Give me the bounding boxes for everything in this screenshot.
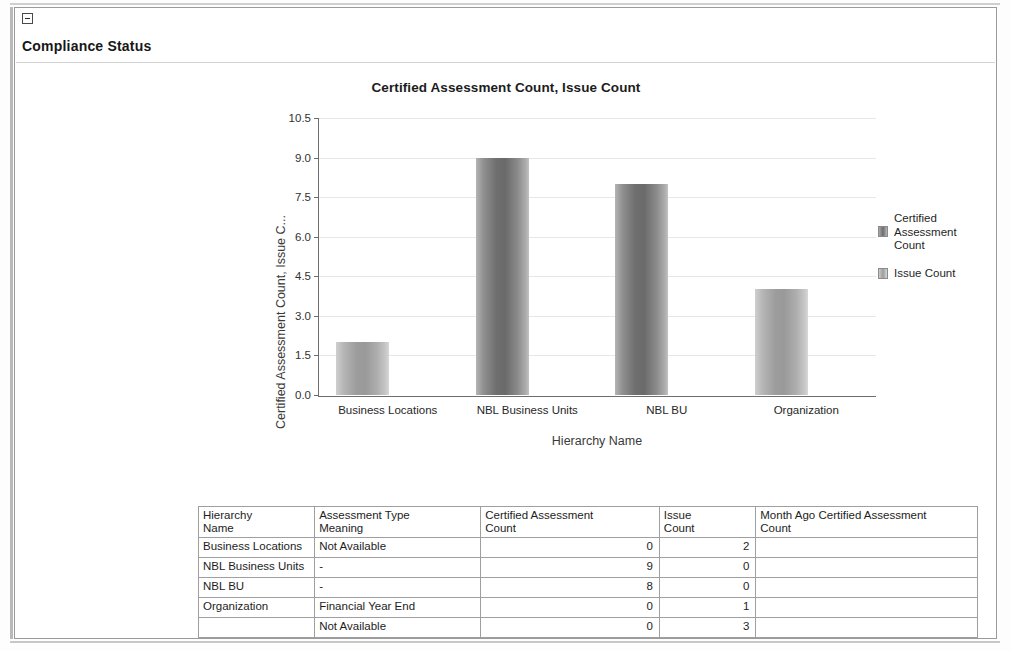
gridline (319, 237, 876, 238)
gridline (319, 118, 876, 119)
cell-month-ago-certified-assessment-count (756, 578, 978, 598)
legend-item-issue-count[interactable]: Issue Count (878, 267, 996, 281)
cell-assessment-type-meaning: Not Available (315, 538, 481, 558)
y-axis-tick-label: 4.5 (295, 270, 311, 282)
y-axis-tick-label: 9.0 (295, 152, 311, 164)
cell-assessment-type-meaning: - (315, 578, 481, 598)
y-axis-tick (314, 158, 318, 159)
y-axis-tick (314, 316, 318, 317)
cell-issue-count: 1 (659, 598, 755, 618)
bar-issue-count[interactable] (755, 289, 808, 395)
bar-certified-assessment-count[interactable] (476, 158, 529, 395)
cell-certified-assessment-count: 0 (481, 598, 660, 618)
y-axis-tick (314, 197, 318, 198)
table-body: Business LocationsNot Available02NBL Bus… (199, 538, 978, 638)
column-header-line: Count (485, 522, 655, 535)
y-axis-tick-label: 10.5 (289, 112, 311, 124)
chart-legend: Certified Assessment Count Issue Count (878, 212, 996, 294)
legend-label-line1: Certified (894, 212, 996, 226)
panel-left-edge (10, 7, 13, 639)
collapse-minus-icon[interactable] (22, 13, 33, 24)
cell-issue-count: 3 (659, 618, 755, 638)
column-header-line: Certified Assessment (485, 509, 655, 522)
legend-item-certified-assessment-count[interactable]: Certified Assessment Count (878, 212, 996, 253)
y-axis-tick (314, 118, 318, 119)
y-axis-tick-label: 0.0 (295, 389, 311, 401)
gridline (319, 276, 876, 277)
chart-title: Certified Assessment Count, Issue Count (16, 80, 996, 95)
cell-certified-assessment-count: 8 (481, 578, 660, 598)
y-axis-tick-label: 6.0 (295, 231, 311, 243)
table-row[interactable]: Business LocationsNot Available02 (199, 538, 978, 558)
column-header-issue-count[interactable]: IssueCount (659, 507, 755, 538)
legend-label-line1: Issue Count (894, 267, 996, 281)
y-axis-tick (314, 276, 318, 277)
x-axis-line (318, 396, 876, 397)
page-title: Compliance Status (22, 38, 151, 54)
gridline (319, 158, 876, 159)
x-axis-tick-label: NBL Business Units (477, 404, 578, 416)
y-axis-tick (314, 395, 318, 396)
report-page: Compliance Status Certified Assessment C… (0, 0, 1011, 651)
y-axis-tick (314, 355, 318, 356)
gridline (319, 197, 876, 198)
table-row[interactable]: NBL Business Units-90 (199, 558, 978, 578)
cell-issue-count: 0 (659, 578, 755, 598)
cell-assessment-type-meaning: Not Available (315, 618, 481, 638)
x-axis-tick-label: NBL BU (646, 404, 687, 416)
table-row[interactable]: OrganizationFinancial Year End01 (199, 598, 978, 618)
x-axis-title: Hierarchy Name (318, 434, 876, 448)
column-header-line: Meaning (319, 522, 476, 535)
x-axis-tick-label: Business Locations (338, 404, 437, 416)
cell-hierarchy-name: Organization (199, 598, 315, 618)
bar-issue-count[interactable] (336, 342, 389, 395)
legend-swatch-icon (878, 268, 888, 279)
cell-month-ago-certified-assessment-count (756, 598, 978, 618)
column-header-line: Hierarchy (203, 509, 310, 522)
y-axis-title: Certified Assessment Count, Issue C... (274, 182, 292, 462)
cell-hierarchy-name (199, 618, 315, 638)
panel-bottom-edge (10, 641, 1000, 643)
column-header-line: Count (664, 522, 751, 535)
column-header-month-ago-certified-assessment-count[interactable]: Month Ago Certified AssessmentCount (756, 507, 978, 538)
panel-top-edge (10, 3, 1000, 5)
column-header-line: Issue (664, 509, 751, 522)
column-header-line: Month Ago Certified Assessment (760, 509, 973, 522)
cell-hierarchy-name: Business Locations (199, 538, 315, 558)
y-axis-tick-label: 3.0 (295, 310, 311, 322)
cell-certified-assessment-count: 9 (481, 558, 660, 578)
bar-chart: Certified Assessment Count, Issue Count … (16, 64, 996, 484)
table-header: HierarchyName Assessment TypeMeaning Cer… (199, 507, 978, 538)
column-header-certified-assessment-count[interactable]: Certified AssessmentCount (481, 507, 660, 538)
compliance-data-table: HierarchyName Assessment TypeMeaning Cer… (198, 506, 978, 638)
cell-issue-count: 2 (659, 538, 755, 558)
cell-assessment-type-meaning: - (315, 558, 481, 578)
cell-month-ago-certified-assessment-count (756, 618, 978, 638)
cell-hierarchy-name: NBL BU (199, 578, 315, 598)
cell-hierarchy-name: NBL Business Units (199, 558, 315, 578)
cell-assessment-type-meaning: Financial Year End (315, 598, 481, 618)
x-axis-tick-label: Organization (774, 404, 839, 416)
plot-area: 0.01.53.04.56.07.59.010.5 Business Locat… (318, 118, 876, 396)
cell-month-ago-certified-assessment-count (756, 538, 978, 558)
column-header-line: Count (760, 522, 973, 535)
title-divider (16, 62, 995, 63)
legend-label-line2: Assessment (894, 226, 996, 240)
legend-swatch-icon (878, 226, 888, 237)
cell-certified-assessment-count: 0 (481, 618, 660, 638)
column-header-assessment-type-meaning[interactable]: Assessment TypeMeaning (315, 507, 481, 538)
column-header-hierarchy-name[interactable]: HierarchyName (199, 507, 315, 538)
bar-certified-assessment-count[interactable] (615, 184, 668, 395)
y-axis-tick (314, 237, 318, 238)
y-axis-tick-label: 7.5 (295, 191, 311, 203)
table-header-row: HierarchyName Assessment TypeMeaning Cer… (199, 507, 978, 538)
y-axis-tick-label: 1.5 (295, 349, 311, 361)
table-row[interactable]: Not Available03 (199, 618, 978, 638)
cell-month-ago-certified-assessment-count (756, 558, 978, 578)
cell-certified-assessment-count: 0 (481, 538, 660, 558)
table-row[interactable]: NBL BU-80 (199, 578, 978, 598)
legend-label-line3: Count (894, 239, 996, 253)
cell-issue-count: 0 (659, 558, 755, 578)
column-header-line: Assessment Type (319, 509, 476, 522)
column-header-line: Name (203, 522, 310, 535)
